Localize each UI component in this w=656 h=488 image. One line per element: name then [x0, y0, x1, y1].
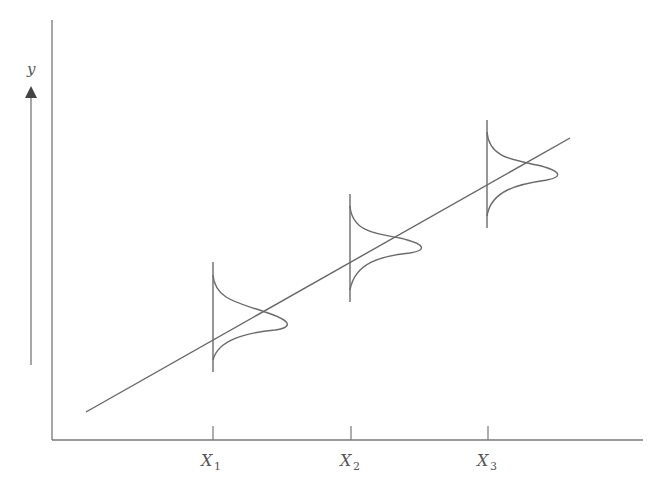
distribution-x2: [350, 194, 421, 302]
svg-text:X: X: [199, 451, 213, 470]
tick-label-x3: X 3: [475, 451, 497, 473]
svg-text:1: 1: [214, 460, 221, 473]
regression-line: [86, 138, 570, 412]
tick-label-x1: X 1: [199, 451, 221, 473]
svg-text:3: 3: [490, 460, 497, 473]
distribution-x3: [487, 120, 558, 228]
svg-text:2: 2: [353, 460, 360, 473]
y-axis-label: y: [26, 60, 36, 78]
svg-text:X: X: [475, 451, 489, 470]
distribution-x1: [213, 262, 287, 372]
svg-text:X: X: [338, 451, 352, 470]
tick-label-x2: X 2: [338, 451, 360, 473]
regression-diagram: y X 1 X 2 X 3: [0, 0, 656, 488]
y-arrow-icon: [25, 86, 37, 365]
